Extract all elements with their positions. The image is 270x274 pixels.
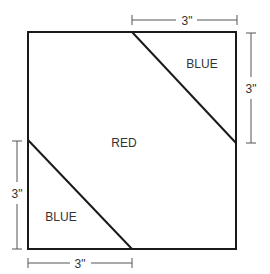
lower-left-diagonal-line — [28, 140, 132, 249]
right-dimension: 3" — [246, 33, 257, 143]
center-region-label: RED — [111, 136, 137, 150]
right-dimension-label: 3" — [246, 82, 257, 96]
upper-right-diagonal-line — [132, 32, 236, 143]
bottom-dimension-label: 3" — [75, 257, 86, 271]
top-dimension: 3" — [132, 14, 237, 28]
top-dimension-label: 3" — [182, 14, 193, 28]
left-dimension: 3" — [12, 141, 23, 249]
left-dimension-label: 3" — [12, 187, 23, 201]
bottom-dimension: 3" — [28, 257, 132, 271]
quilt-diagram: BLUE RED BLUE 3" 3" 3" 3" — [0, 0, 270, 274]
lower-left-region-label: BLUE — [45, 210, 76, 224]
upper-right-region-label: BLUE — [186, 57, 217, 71]
